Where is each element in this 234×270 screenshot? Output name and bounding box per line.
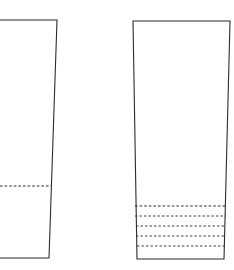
vessel-diagram-svg: [0, 0, 234, 270]
background-rect: [0, 0, 234, 270]
figure-canvas: [0, 0, 234, 270]
